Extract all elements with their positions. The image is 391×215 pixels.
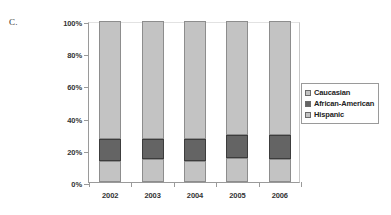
x-axis-tick xyxy=(174,182,175,187)
y-axis-label: 60% xyxy=(67,83,82,92)
plot-area: 0%20%40%60%80%100% 20022003200420052006 xyxy=(88,22,300,183)
bar-segment[interactable] xyxy=(226,135,248,158)
y-axis-label: 80% xyxy=(67,51,82,60)
y-axis-label: 20% xyxy=(67,147,82,156)
y-axis-tick xyxy=(84,23,89,24)
panel-letter: C. xyxy=(9,17,18,27)
x-axis-tick xyxy=(89,182,90,187)
legend-item-label: African-American xyxy=(314,100,374,108)
bar-segment[interactable] xyxy=(99,21,121,139)
stacked-bar[interactable] xyxy=(142,21,164,182)
bar-segment[interactable] xyxy=(142,159,164,182)
legend-item[interactable]: Hispanic xyxy=(305,109,374,120)
legend-swatch-icon xyxy=(305,90,311,96)
bar-segment[interactable] xyxy=(269,21,291,135)
bar-segment[interactable] xyxy=(99,161,121,182)
figure-panel-c: C. 0%20%40%60%80%100% 200220032004200520… xyxy=(0,0,391,215)
bar-segment[interactable] xyxy=(226,158,248,182)
stacked-bar[interactable] xyxy=(226,21,248,182)
y-axis-tick xyxy=(84,120,89,121)
legend-item-label: Hispanic xyxy=(314,111,344,119)
y-axis-label: 100% xyxy=(63,19,82,28)
legend-item[interactable]: African-American xyxy=(305,98,374,109)
x-axis-tick xyxy=(301,182,302,187)
legend-item-label: Caucasian xyxy=(314,89,350,97)
y-axis-tick xyxy=(84,87,89,88)
x-axis-label: 2004 xyxy=(187,191,203,200)
legend-item[interactable]: Caucasian xyxy=(305,87,374,98)
y-axis-label: 0% xyxy=(71,180,82,189)
stacked-bar[interactable] xyxy=(269,21,291,182)
bar-segment[interactable] xyxy=(269,159,291,182)
bar-segment[interactable] xyxy=(184,139,206,162)
y-axis-tick xyxy=(84,55,89,56)
bar-segment[interactable] xyxy=(184,21,206,139)
stacked-bar[interactable] xyxy=(99,21,121,182)
bar-segment[interactable] xyxy=(142,139,164,160)
bar-segment[interactable] xyxy=(142,21,164,139)
stacked-bar[interactable] xyxy=(184,21,206,182)
x-axis-tick xyxy=(216,182,217,187)
x-axis-tick xyxy=(131,182,132,187)
bar-segment[interactable] xyxy=(226,21,248,135)
x-axis-label: 2005 xyxy=(229,191,245,200)
y-axis-label: 40% xyxy=(67,115,82,124)
bar-segment[interactable] xyxy=(99,139,121,162)
bar-segment[interactable] xyxy=(184,161,206,182)
legend: CaucasianAfrican-AmericanHispanic xyxy=(301,83,379,124)
x-axis-tick xyxy=(259,182,260,187)
bar-segment[interactable] xyxy=(269,135,291,159)
x-axis-label: 2002 xyxy=(102,191,118,200)
legend-swatch-icon xyxy=(305,112,311,118)
y-axis-tick xyxy=(84,152,89,153)
x-axis-label: 2003 xyxy=(144,191,160,200)
legend-swatch-icon xyxy=(305,101,311,107)
x-axis-label: 2006 xyxy=(272,191,288,200)
